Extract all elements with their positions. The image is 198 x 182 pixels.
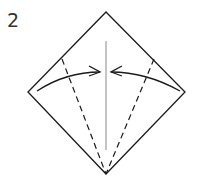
left-arrowhead-icon xyxy=(89,66,100,76)
right-fold-arrow xyxy=(111,72,180,91)
right-arrowhead-icon xyxy=(111,66,122,76)
right-valley-fold xyxy=(106,59,154,174)
origami-diagram xyxy=(0,0,198,182)
